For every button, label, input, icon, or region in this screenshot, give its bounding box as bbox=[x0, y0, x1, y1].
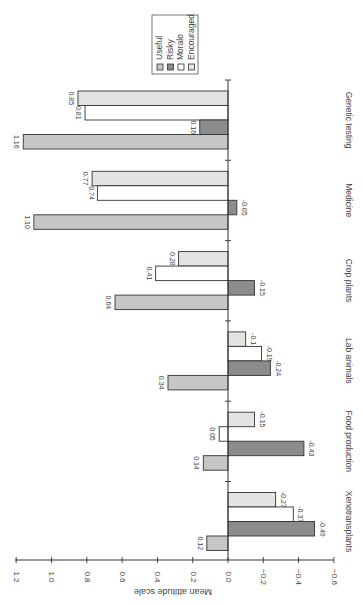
value-label: 0.81 bbox=[75, 106, 82, 120]
bar-moralo-genetic-testing bbox=[85, 106, 228, 121]
bar-useful-lab-animals bbox=[168, 375, 228, 390]
bar-risky-xenotransplants bbox=[228, 522, 314, 537]
axis-tick-label: 0.8 bbox=[83, 571, 92, 583]
value-label: 0.74 bbox=[88, 186, 95, 200]
bar-moralo-lab-animals bbox=[228, 346, 262, 361]
tick-labels-layer: 1.21.00.80.60.40.20.0−0.2−0.4−0.6 bbox=[12, 569, 339, 585]
bar-risky-lab-animals bbox=[228, 361, 270, 376]
value-label: -0.37 bbox=[297, 506, 304, 522]
value-label: 0.41 bbox=[146, 267, 153, 281]
bars-layer bbox=[23, 91, 314, 551]
bar-useful-genetic-testing bbox=[23, 135, 228, 150]
category-label: Genetic testing bbox=[344, 92, 354, 149]
category-label: Xenotransplants bbox=[344, 491, 354, 552]
value-label: -0.15 bbox=[259, 411, 266, 427]
value-label: 0.28 bbox=[169, 252, 176, 266]
category-label: Food production bbox=[344, 410, 354, 472]
bar-risky-food-production bbox=[228, 441, 304, 456]
legend: UsefulRiskyMoraloEncouraged bbox=[152, 14, 198, 74]
bar-encouraged-food-production bbox=[228, 412, 254, 427]
value-label: -0.24 bbox=[275, 360, 282, 376]
value-label: 0.16 bbox=[190, 120, 197, 134]
value-label: -0.19 bbox=[266, 346, 273, 362]
axis-tick-label: −0.2 bbox=[259, 569, 268, 585]
legend-swatch-risky bbox=[168, 64, 174, 70]
value-label: 0.77 bbox=[82, 172, 89, 186]
value-label: 0.14 bbox=[193, 456, 200, 470]
axis-tick-label: 1.0 bbox=[47, 571, 56, 583]
axis-label: Mean attitude scale bbox=[134, 587, 212, 597]
legend-label-0: Useful bbox=[154, 36, 164, 60]
value-label: -0.1 bbox=[250, 333, 257, 345]
axis-tick-label: 0.6 bbox=[118, 571, 127, 583]
value-label: -0.05 bbox=[241, 200, 248, 216]
legend-swatch-encouraged bbox=[189, 64, 195, 70]
bar-moralo-crop-plants bbox=[156, 266, 228, 281]
bar-encouraged-genetic-testing bbox=[78, 91, 228, 106]
value-label: -0.15 bbox=[259, 280, 266, 296]
legend-swatch-useful bbox=[157, 64, 163, 70]
category-label: Crop plants bbox=[344, 259, 354, 302]
axis-tick-label: 1.2 bbox=[12, 571, 21, 583]
bar-useful-crop-plants bbox=[115, 295, 228, 310]
legend-swatch-moralo bbox=[178, 64, 184, 70]
category-label: Lab animals bbox=[344, 338, 354, 384]
axes-layer bbox=[15, 80, 334, 563]
axis-tick-label: −0.6 bbox=[330, 569, 339, 585]
legend-label-3: Encouraged bbox=[186, 14, 196, 60]
bar-moralo-medicine bbox=[97, 186, 228, 201]
axis-tick-label: 0.2 bbox=[189, 571, 198, 583]
value-label: 0.12 bbox=[197, 536, 204, 550]
bar-risky-medicine bbox=[228, 200, 237, 215]
value-label: 1.10 bbox=[24, 215, 31, 229]
bar-useful-xenotransplants bbox=[207, 536, 228, 551]
bar-chart: -0.27-0.37-0.490.12-0.150.05-0.430.14-0.… bbox=[0, 0, 363, 605]
value-label: -0.27 bbox=[280, 492, 287, 508]
category-label: Medicine bbox=[344, 183, 354, 217]
legend-label-1: Risky bbox=[165, 38, 175, 60]
bar-risky-genetic-testing bbox=[200, 120, 228, 135]
value-label: 0.85 bbox=[68, 91, 75, 105]
value-labels-layer: -0.27-0.37-0.490.12-0.150.05-0.430.14-0.… bbox=[13, 91, 325, 550]
bar-encouraged-lab-animals bbox=[228, 332, 246, 347]
bar-encouraged-crop-plants bbox=[179, 252, 228, 267]
bar-moralo-food-production bbox=[219, 427, 228, 442]
value-label: 0.34 bbox=[158, 376, 165, 390]
value-label: -0.49 bbox=[319, 521, 326, 537]
bar-risky-crop-plants bbox=[228, 281, 254, 296]
bar-moralo-xenotransplants bbox=[228, 507, 293, 522]
bar-encouraged-medicine bbox=[92, 171, 228, 186]
category-labels-layer: XenotransplantsFood productionLab animal… bbox=[344, 92, 354, 553]
axis-tick-label: 0.4 bbox=[153, 571, 162, 583]
value-label: 1.16 bbox=[13, 135, 20, 149]
axis-tick-label: −0.4 bbox=[294, 569, 303, 585]
value-label: -0.43 bbox=[308, 440, 315, 456]
bar-encouraged-xenotransplants bbox=[228, 493, 276, 508]
value-label: 0.64 bbox=[105, 296, 112, 310]
bar-useful-food-production bbox=[203, 456, 228, 471]
value-label: 0.05 bbox=[209, 427, 216, 441]
bar-useful-medicine bbox=[34, 215, 228, 230]
axis-tick-label: 0.0 bbox=[224, 571, 233, 583]
legend-label-2: Moralo bbox=[175, 34, 185, 60]
